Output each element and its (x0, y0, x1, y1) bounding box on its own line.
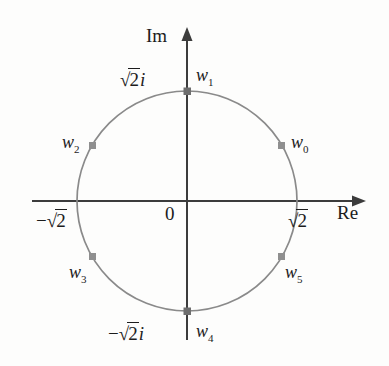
root-label-w4-base: w (196, 321, 208, 341)
positive-imaginary-tick-label: √2i (120, 68, 145, 89)
root-label-w1-base: w (196, 65, 208, 85)
root-label-w1: w1 (196, 66, 214, 88)
root-marker-w3 (89, 253, 96, 260)
plot-canvas (0, 0, 389, 366)
root-label-w2-sub: 2 (74, 143, 80, 155)
root-label-w0-sub: 0 (303, 143, 309, 155)
root-label-w3-sub: 3 (81, 273, 87, 285)
radicand: 2 (55, 209, 67, 230)
root-label-w5-sub: 5 (297, 273, 303, 285)
root-label-w2: w2 (62, 133, 80, 155)
root-label-w0-base: w (291, 132, 303, 152)
imaginary-axis-arrowhead (182, 27, 193, 41)
root-label-w5-base: w (285, 262, 297, 282)
root-label-w3-base: w (69, 262, 81, 282)
imaginary-axis-label: Im (146, 26, 167, 45)
imaginary-unit: i (139, 323, 144, 344)
root-marker-w1 (184, 88, 192, 96)
real-axis-label: Re (337, 203, 358, 222)
root-marker-w0 (278, 142, 285, 149)
root-label-w4-sub: 4 (208, 332, 214, 344)
root-marker-w4 (184, 308, 192, 316)
root-label-w3: w3 (69, 263, 87, 285)
minus-sign: − (36, 210, 47, 231)
negative-imaginary-tick-label: −√2i (108, 322, 144, 343)
radicand: 2 (128, 68, 140, 89)
root-label-w0: w0 (291, 133, 309, 155)
root-marker-w2 (89, 142, 96, 149)
negative-real-tick-label: −√2 (36, 209, 67, 230)
root-marker-w5 (278, 253, 285, 260)
imaginary-unit: i (140, 69, 145, 90)
positive-real-tick-label: √2 (288, 209, 308, 230)
radicand: 2 (127, 322, 139, 343)
radicand: 2 (296, 209, 308, 230)
complex-plane-figure: Im Re 0 √2i −√2i √2 −√2 w0 w1 w2 w3 w4 w… (0, 0, 389, 366)
root-label-w1-sub: 1 (208, 76, 214, 88)
origin-label: 0 (165, 204, 175, 223)
minus-sign: − (108, 323, 119, 344)
root-label-w5: w5 (285, 263, 303, 285)
root-label-w4: w4 (196, 322, 214, 344)
root-label-w2-base: w (62, 132, 74, 152)
